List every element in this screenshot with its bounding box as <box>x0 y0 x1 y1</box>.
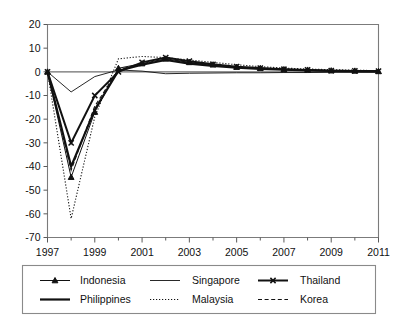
y-tick-label: -10 <box>25 89 40 101</box>
y-tick-label: 0 <box>35 66 41 78</box>
x-axis: 19971999200120032005200720092011 <box>36 238 390 258</box>
y-tick-label: -70 <box>25 231 40 243</box>
y-tick-label: -40 <box>25 160 40 172</box>
x-tick-label: 1997 <box>36 246 60 258</box>
legend-item-singapore[interactable]: Singapore <box>150 274 240 286</box>
x-tick-label: 1999 <box>83 246 107 258</box>
legend: IndonesiaPhilippinesSingaporeMalaysiaTha… <box>23 266 376 314</box>
legend-label: Singapore <box>192 274 240 286</box>
x-tick-label: 2003 <box>178 246 202 258</box>
x-tick-label: 2007 <box>272 246 296 258</box>
legend-label: Thailand <box>300 274 340 286</box>
y-tick-label: 20 <box>29 18 41 30</box>
y-tick-label: 10 <box>29 42 41 54</box>
legend-label: Indonesia <box>80 274 126 286</box>
x-tick-label: 2001 <box>130 246 154 258</box>
legend-label: Korea <box>300 293 328 305</box>
legend-item-indonesia[interactable]: Indonesia <box>40 274 126 286</box>
legend-label: Malaysia <box>192 293 234 305</box>
y-tick-label: -20 <box>25 113 40 125</box>
legend-item-philippines[interactable]: Philippines <box>40 293 131 305</box>
x-tick-label: 2011 <box>367 246 390 258</box>
series-malaysia <box>48 56 379 218</box>
x-tick-label: 2005 <box>225 246 249 258</box>
legend-label: Philippines <box>80 293 131 305</box>
economic-recovery-line-chart: 20100-10-20-30-40-50-60-7019971999200120… <box>0 0 398 320</box>
y-tick-label: -50 <box>25 184 40 196</box>
plot-frame <box>48 25 379 238</box>
y-tick-label: -60 <box>25 208 40 220</box>
y-axis: 20100-10-20-30-40-50-60-70 <box>25 18 47 243</box>
x-tick-label: 2009 <box>320 246 344 258</box>
legend-item-korea[interactable]: Korea <box>258 293 328 305</box>
legend-item-thailand[interactable]: Thailand <box>258 274 340 286</box>
legend-item-malaysia[interactable]: Malaysia <box>150 293 234 305</box>
y-tick-label: -30 <box>25 137 40 149</box>
chart-container: 20100-10-20-30-40-50-60-7019971999200120… <box>0 0 398 320</box>
